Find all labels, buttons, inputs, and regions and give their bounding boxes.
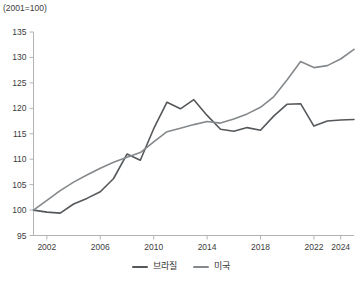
legend-label-brazil: 브라질 (153, 262, 177, 271)
x-tick-label: 2006 (91, 242, 110, 252)
y-tick-label: 120 (12, 103, 26, 113)
y-tick-label: 115 (13, 129, 27, 139)
series-line-us (34, 49, 355, 210)
x-tick-label: 2024 (331, 242, 350, 252)
chart-legend: 브라질 미국 (0, 262, 362, 271)
y-tick-label: 95 (17, 231, 27, 241)
y-tick-label: 105 (12, 180, 26, 190)
x-tick-label: 2018 (251, 242, 270, 252)
x-tick-label: 2002 (37, 242, 56, 252)
brazil-line-swatch (132, 266, 148, 268)
chart-canvas: 9510010511011512012513013520022006201020… (0, 0, 362, 260)
x-tick-label: 2014 (198, 242, 217, 252)
y-tick-label: 125 (12, 78, 26, 88)
line-chart: (2001=100) 95100105110115120125130135200… (0, 0, 362, 293)
y-tick-label: 110 (13, 154, 27, 164)
y-tick-label: 100 (12, 205, 26, 215)
legend-item-us: 미국 (193, 262, 230, 271)
y-tick-label: 130 (12, 52, 26, 62)
legend-label-us: 미국 (214, 262, 230, 271)
legend-item-brazil: 브라질 (132, 262, 177, 271)
x-tick-label: 2010 (144, 242, 163, 252)
series-line-brazil (34, 100, 355, 213)
x-tick-label: 2022 (304, 242, 323, 252)
y-tick-label: 135 (12, 27, 26, 37)
us-line-swatch (193, 266, 209, 268)
